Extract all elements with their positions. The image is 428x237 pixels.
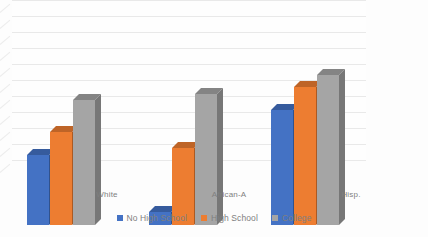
gridline (12, 0, 366, 1)
legend-swatch-icon (201, 215, 207, 221)
gridline-depth-edge (0, 132, 10, 141)
bar-front-face (195, 94, 217, 225)
gridline (12, 16, 366, 17)
bar-front-face (50, 132, 72, 225)
gridline (12, 64, 366, 65)
gridline-depth-edge (0, 4, 10, 13)
legend-label: College (282, 213, 312, 223)
bar-side-face (217, 88, 223, 225)
bar-side-face (95, 94, 101, 225)
bar (195, 94, 217, 225)
legend-item[interactable]: High School (201, 213, 258, 223)
bar-side-face (339, 69, 345, 225)
legend-label: No High School (127, 213, 187, 223)
gridline-depth-edge (0, 52, 10, 61)
bar-front-face (73, 100, 95, 225)
x-axis-category-label: White (46, 190, 168, 199)
bar (50, 132, 72, 225)
gridline-depth-edge (0, 36, 10, 45)
legend-swatch-icon (272, 215, 278, 221)
legend-item[interactable]: College (272, 213, 312, 223)
bar-front-face (271, 110, 293, 225)
gridline (12, 48, 366, 49)
bar (73, 100, 95, 225)
gridline (12, 32, 366, 33)
gridline-depth-edge (0, 100, 10, 109)
legend-swatch-icon (117, 215, 123, 221)
bar-front-face (317, 75, 339, 225)
bar (271, 110, 293, 225)
gridline-depth-edge (0, 116, 10, 125)
x-axis-category-label: African-A (168, 190, 290, 199)
bar (294, 87, 316, 225)
chart-legend: No High SchoolHigh SchoolCollege (0, 213, 428, 223)
gridline-depth-edge (0, 84, 10, 93)
legend-item[interactable]: No High School (117, 213, 187, 223)
legend-label: High School (211, 213, 258, 223)
gridline-depth-edge (0, 20, 10, 29)
chart-container: 9085807570656055504540 WhiteAfrican-AHis… (0, 0, 428, 237)
gridline-depth-edge (0, 68, 10, 77)
bar (317, 75, 339, 225)
bar-front-face (294, 87, 316, 225)
x-axis-category-label: Hisp. (290, 190, 412, 199)
gridline-depth-edge (0, 148, 10, 157)
